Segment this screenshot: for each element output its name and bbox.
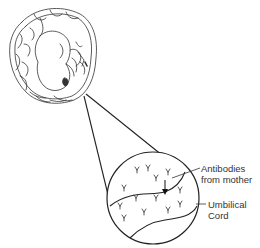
cone-line-left xyxy=(84,96,110,203)
fetus-in-womb-illustration xyxy=(10,8,97,103)
label-cord-line2: Cord xyxy=(208,210,247,221)
label-cord-line1: Umbilical xyxy=(208,199,247,210)
label-antibodies-line1: Antibodies xyxy=(201,163,252,174)
label-antibodies-from-mother: Antibodies from mother xyxy=(201,163,252,185)
magnified-umbilical-cord-view xyxy=(107,152,199,244)
label-umbilical-cord: Umbilical Cord xyxy=(208,199,247,221)
label-antibodies-line2: from mother xyxy=(201,174,252,185)
